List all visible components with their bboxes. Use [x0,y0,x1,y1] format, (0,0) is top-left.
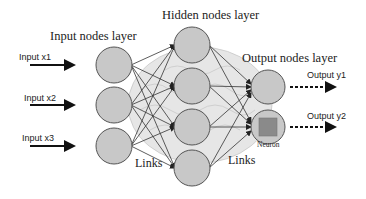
input-layer [96,47,132,164]
links-label-left: Links [135,156,163,170]
hidden-node-3 [174,109,210,145]
input-node-3 [96,128,132,164]
output-arrows [290,81,337,133]
neuron-square-icon [259,118,277,136]
output-label-y2: Output y2 [307,111,346,121]
input-node-1 [96,47,132,83]
input-node-2 [96,87,132,123]
input-label-x1: Input x1 [19,52,51,62]
input-label-x3: Input x3 [22,133,54,143]
hidden-layer-title: Hidden nodes layer [162,8,260,22]
output-node-1 [251,70,285,104]
neural-network-diagram: Input nodes layer Hidden nodes layer Out… [0,0,366,199]
neuron-label: Neuron [257,140,280,149]
output-layer-title: Output nodes layer [242,51,338,65]
hidden-node-1 [174,27,210,63]
links-label-right: Links [228,153,256,167]
output-label-y1: Output y1 [307,70,346,80]
input-label-x2: Input x2 [24,93,56,103]
input-layer-title: Input nodes layer [50,29,138,43]
hidden-node-2 [174,68,210,104]
hidden-node-4 [174,150,210,186]
